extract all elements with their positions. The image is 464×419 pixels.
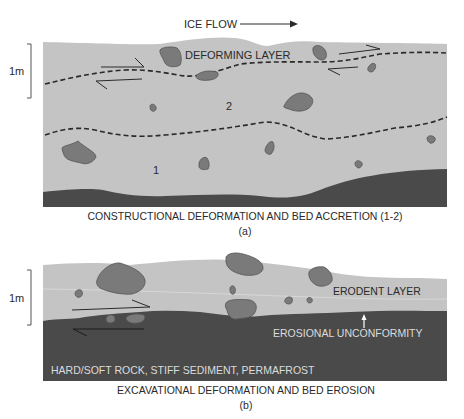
- deforming-layer-label: DEFORMING LAYER: [185, 49, 291, 61]
- clast: [106, 315, 115, 323]
- clast: [225, 299, 256, 319]
- ice-flow-label: ICE FLOW: [184, 18, 238, 30]
- arrow-right-icon: [240, 21, 298, 28]
- clast: [427, 136, 435, 143]
- panel-letter-b: (b): [240, 399, 253, 411]
- clast: [230, 286, 235, 294]
- caption-a: CONSTRUCTIONAL DEFORMATION AND BED ACCRE…: [87, 210, 402, 222]
- erodent-layer-label: ERODENT LAYER: [333, 285, 421, 297]
- glacial-deformation-diagram: ICE FLOW 1m: [0, 0, 464, 419]
- unconformity-label: EROSIONAL UNCONFORMITY: [273, 327, 423, 339]
- panel-letter-a: (a): [239, 225, 252, 237]
- clast: [126, 314, 145, 323]
- clast: [355, 161, 362, 168]
- bracket-icon: [27, 270, 31, 325]
- scale-label-b: 1m: [9, 292, 24, 304]
- clast: [285, 297, 293, 304]
- clast: [75, 290, 82, 298]
- panel-a: ICE FLOW 1m: [9, 18, 447, 237]
- panel-b: 1m: [9, 253, 447, 411]
- unit-2-label: 2: [226, 100, 232, 112]
- clast: [307, 298, 312, 304]
- substrate-label: HARD/SOFT ROCK, STIFF SEDIMENT, PERMAFRO…: [51, 364, 315, 376]
- unit-1-label: 1: [153, 164, 159, 176]
- scale-label-a: 1m: [9, 65, 24, 77]
- bracket-icon: [27, 44, 31, 98]
- caption-b: EXCAVATIONAL DEFORMATION AND BED EROSION: [117, 384, 375, 396]
- clast: [150, 104, 156, 111]
